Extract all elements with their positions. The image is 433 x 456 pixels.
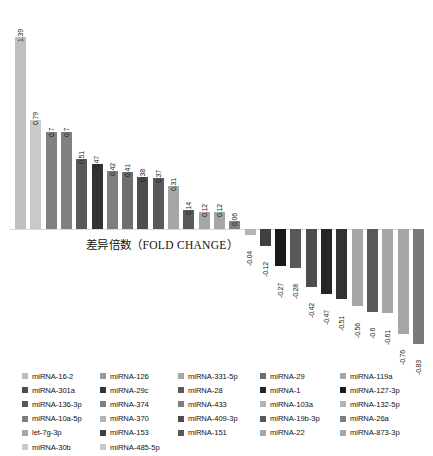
legend-label: miRNA-331-5p <box>188 372 238 381</box>
legend-item[interactable]: miRNA-153 <box>100 426 160 440</box>
legend-swatch-icon <box>100 430 106 436</box>
bar-value-label: 0.51 <box>78 151 85 164</box>
bar-value-label: 0.37 <box>155 170 162 183</box>
legend-label: miRNA-433 <box>188 400 227 409</box>
legend-item[interactable]: miRNA-10a-5p <box>22 412 82 426</box>
legend-label: miRNA-485-5p <box>110 443 160 452</box>
legend-item[interactable]: miRNA-136-3p <box>22 397 82 411</box>
legend-item[interactable]: miRNA-151 <box>178 426 238 440</box>
legend-swatch-icon <box>340 430 346 436</box>
legend-item[interactable]: miRNA-1 <box>260 383 320 397</box>
legend-item[interactable]: miRNA-30b <box>22 440 82 454</box>
legend-swatch-icon <box>340 387 346 393</box>
legend-item[interactable]: miRNA-29 <box>260 369 320 383</box>
bar-value-label: -0.12 <box>262 262 269 277</box>
bar <box>398 229 409 334</box>
chart-legend: miRNA-16-2miRNA-301amiRNA-136-3pmiRNA-10… <box>22 369 422 451</box>
legend-item[interactable]: miRNA-374 <box>100 397 160 411</box>
legend-label: miRNA-29c <box>110 386 148 395</box>
bar <box>92 164 103 229</box>
legend-label: miRNA-370 <box>110 414 149 423</box>
legend-swatch-icon <box>178 416 184 422</box>
bar <box>107 171 118 229</box>
legend-label: miRNA-19b-3p <box>270 414 320 423</box>
legend-item[interactable]: let-7g-3p <box>22 426 82 440</box>
bar-value-label: -0.6 <box>369 328 376 339</box>
legend-label: miRNA-126 <box>110 372 149 381</box>
bar-value-label: 0.14 <box>185 202 192 215</box>
legend-swatch-icon <box>100 444 106 450</box>
legend-swatch-icon <box>178 373 184 379</box>
legend-item[interactable]: miRNA-127-3p <box>340 383 400 397</box>
legend-label: miRNA-28 <box>188 386 223 395</box>
legend-item[interactable]: miRNA-301a <box>22 383 82 397</box>
legend-item[interactable]: miRNA-409-3p <box>178 412 238 426</box>
legend-swatch-icon <box>22 387 28 393</box>
bar-value-label: -0.47 <box>323 310 330 325</box>
legend-label: miRNA-153 <box>110 428 149 437</box>
bar-value-label: 0.47 <box>93 156 100 169</box>
bar-value-label: 0.12 <box>201 205 208 218</box>
bar <box>382 229 393 313</box>
bar <box>168 186 179 229</box>
bar <box>15 37 26 229</box>
bar <box>413 229 424 344</box>
legend-item[interactable]: miRNA-26a <box>340 412 400 426</box>
bar-value-label: -0.51 <box>338 316 345 331</box>
legend-item[interactable]: miRNA-28 <box>178 383 238 397</box>
legend-label: let-7g-3p <box>32 428 62 437</box>
legend-item[interactable]: miRNA-126 <box>100 369 160 383</box>
legend-swatch-icon <box>22 401 28 407</box>
bar <box>76 159 87 229</box>
bar-value-label: 1.39 <box>17 29 24 42</box>
legend-label: miRNA-127-3p <box>350 386 400 395</box>
legend-item[interactable]: miRNA-19b-3p <box>260 412 320 426</box>
fold-change-bar-chart: 1.390.790.70.70.510.470.420.410.380.370.… <box>0 0 433 360</box>
legend-label: miRNA-30b <box>32 443 71 452</box>
legend-label: miRNA-374 <box>110 400 149 409</box>
bar <box>46 132 57 229</box>
legend-swatch-icon <box>100 373 106 379</box>
legend-item[interactable]: miRNA-331-5p <box>178 369 238 383</box>
bar-value-label: -0.56 <box>354 323 361 338</box>
legend-swatch-icon <box>260 416 266 422</box>
legend-label: miRNA-301a <box>32 386 75 395</box>
legend-swatch-icon <box>340 416 346 422</box>
legend-label: miRNA-409-3p <box>188 414 238 423</box>
legend-item[interactable]: miRNA-132-5p <box>340 397 400 411</box>
bar <box>153 178 164 229</box>
legend-swatch-icon <box>340 401 346 407</box>
legend-item[interactable]: miRNA-22 <box>260 426 320 440</box>
bar <box>367 229 378 312</box>
legend-column: miRNA-126miRNA-29cmiRNA-374miRNA-370miRN… <box>100 369 160 454</box>
legend-item[interactable]: miRNA-119a <box>340 369 400 383</box>
legend-swatch-icon <box>22 416 28 422</box>
bar <box>137 177 148 229</box>
bar-value-label: 0.31 <box>170 178 177 191</box>
bar <box>61 132 72 229</box>
legend-label: miRNA-132-5p <box>350 400 400 409</box>
legend-swatch-icon <box>260 373 266 379</box>
legend-item[interactable]: miRNA-873-3p <box>340 426 400 440</box>
bar-value-label: -0.76 <box>399 350 406 365</box>
bar <box>30 120 41 229</box>
bar-value-label: 0.41 <box>124 165 131 178</box>
legend-item[interactable]: miRNA-103a <box>260 397 320 411</box>
legend-label: miRNA-103a <box>270 400 313 409</box>
bar <box>321 229 332 294</box>
legend-item[interactable]: miRNA-433 <box>178 397 238 411</box>
bar-value-label: -0.42 <box>308 303 315 318</box>
legend-item[interactable]: miRNA-29c <box>100 383 160 397</box>
legend-label: miRNA-10a-5p <box>32 414 82 423</box>
legend-item[interactable]: miRNA-370 <box>100 412 160 426</box>
bar-value-label: 0.7 <box>63 128 70 137</box>
legend-label: miRNA-873-3p <box>350 428 400 437</box>
bar <box>352 229 363 306</box>
legend-item[interactable]: miRNA-485-5p <box>100 440 160 454</box>
legend-swatch-icon <box>260 401 266 407</box>
bar <box>245 229 256 235</box>
legend-column: miRNA-331-5pmiRNA-28miRNA-433miRNA-409-3… <box>178 369 238 440</box>
legend-swatch-icon <box>260 387 266 393</box>
bar-value-label: 0.42 <box>109 163 116 176</box>
legend-item[interactable]: miRNA-16-2 <box>22 369 82 383</box>
